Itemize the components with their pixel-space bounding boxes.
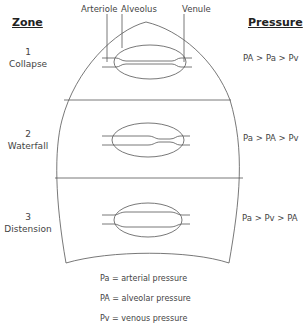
zone3-vessel-bottom xyxy=(102,224,190,227)
zone-2-number: 2 xyxy=(6,128,50,140)
legend-arterial: Pa = arterial pressure xyxy=(100,274,187,283)
zone-1-number: 1 xyxy=(8,46,48,58)
zone1-vessel-top xyxy=(102,58,192,61)
zone-2-label: 2 Waterfall xyxy=(6,128,50,152)
zone2-alveolus xyxy=(112,123,184,157)
zone-heading: Zone xyxy=(12,16,43,29)
zone3-alveolus xyxy=(114,203,182,237)
zone-1-label: 1 Collapse xyxy=(8,46,48,70)
zone2-vessel-bottom xyxy=(102,142,190,145)
zone-3-label: 3 Distension xyxy=(4,211,52,235)
zone-2-pressure: Pa > PA > Pv xyxy=(243,133,299,143)
pressure-heading: Pressure xyxy=(248,16,303,29)
zone1-alveolus xyxy=(114,45,186,79)
zone-1-name: Collapse xyxy=(8,58,48,70)
zone-3-number: 3 xyxy=(4,211,52,223)
zone-3-pressure: Pa > Pv > PA xyxy=(242,213,298,223)
legend-venous: Pv = venous pressure xyxy=(100,314,187,323)
arteriole-label: Arteriole xyxy=(81,4,118,14)
legend-alveolar: PA = alveolar pressure xyxy=(100,294,191,303)
zone-3-name: Distension xyxy=(4,223,52,235)
venule-label: Venule xyxy=(182,4,211,14)
alveolus-label: Alveolus xyxy=(121,4,157,14)
zone-2-name: Waterfall xyxy=(6,140,50,152)
zone3-vessel-top xyxy=(102,212,190,215)
zone2-vessel-top xyxy=(102,136,190,139)
zone-1-pressure: PA > Pa > Pv xyxy=(243,53,299,63)
